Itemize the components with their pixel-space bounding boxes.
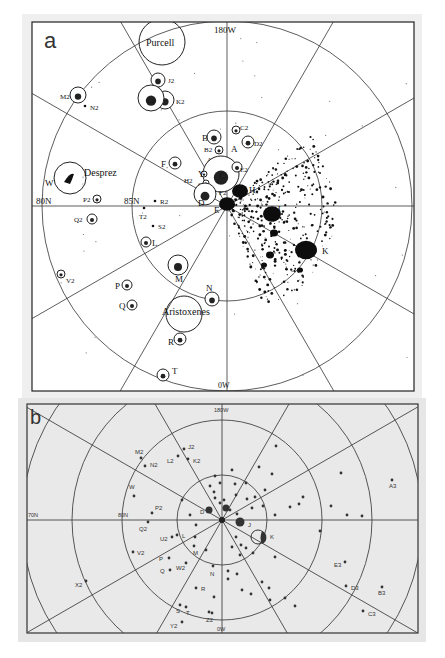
- panel-a-letter: a: [44, 28, 57, 53]
- svg-text:D2: D2: [254, 140, 263, 148]
- svg-text:T: T: [172, 366, 178, 376]
- svg-text:M2: M2: [60, 93, 70, 101]
- svg-text:E: E: [214, 205, 220, 215]
- svg-text:L2: L2: [167, 458, 174, 464]
- svg-text:Z2: Z2: [206, 617, 214, 623]
- svg-text:N: N: [210, 571, 214, 577]
- svg-text:H2: H2: [184, 177, 193, 185]
- feature-l: L: [141, 237, 158, 248]
- svg-text:Y: Y: [198, 169, 205, 179]
- svg-text:D: D: [200, 509, 205, 515]
- svg-text:L2: L2: [147, 97, 155, 105]
- panel-a: 180W0W80N85NPurcellDesprezAristoxenesJ2K…: [22, 14, 422, 398]
- feature-h2: H2: [184, 177, 193, 185]
- label-85n: 85N: [124, 196, 140, 206]
- svg-text:L: L: [152, 238, 158, 248]
- svg-text:F2: F2: [219, 189, 227, 197]
- svg-text:M2: M2: [135, 449, 144, 455]
- feature-b2: B2: [204, 146, 213, 154]
- svg-text:X2: X2: [75, 582, 83, 588]
- label-180w: 180W: [214, 407, 229, 413]
- svg-text:K: K: [322, 246, 329, 256]
- svg-text:Q: Q: [119, 301, 126, 311]
- svg-text:J: J: [277, 204, 281, 214]
- svg-text:R: R: [168, 337, 174, 347]
- label-80n: 80N: [118, 512, 128, 518]
- svg-text:Y2: Y2: [170, 623, 178, 629]
- svg-text:N: N: [206, 283, 213, 293]
- label-70n: 70N: [28, 512, 38, 518]
- feature-j: J: [277, 204, 281, 214]
- panel-a-map: 180W0W80N85NPurcellDesprezAristoxenesJ2K…: [22, 14, 422, 398]
- svg-text:Desprez: Desprez: [84, 167, 117, 178]
- panel-b: 180W0W80N70NM2N2J2L2K2WP2Q2DJKU2LV2MPW2Q…: [18, 398, 426, 642]
- svg-text:T2: T2: [139, 213, 147, 221]
- svg-text:S2: S2: [158, 223, 166, 231]
- svg-text:V2: V2: [137, 550, 145, 556]
- svg-text:K2: K2: [193, 458, 201, 464]
- svg-text:R2: R2: [160, 198, 169, 206]
- svg-text:B: B: [202, 133, 208, 143]
- svg-text:N2: N2: [150, 462, 158, 468]
- point-d: D: [200, 509, 205, 515]
- svg-text:Q2: Q2: [139, 526, 148, 532]
- label-80n: 80N: [36, 196, 52, 206]
- svg-text:B3: B3: [378, 590, 386, 596]
- svg-text:D: D: [198, 198, 205, 208]
- svg-text:E2: E2: [240, 166, 248, 174]
- svg-text:J2: J2: [188, 444, 195, 450]
- feature-l2: L2: [138, 85, 164, 111]
- svg-text:J2: J2: [168, 77, 175, 85]
- svg-text:U2: U2: [160, 536, 168, 542]
- svg-text:Q: Q: [160, 568, 165, 574]
- svg-text:E3: E3: [334, 562, 342, 568]
- feature-b: B: [202, 130, 221, 144]
- svg-text:K: K: [270, 534, 274, 540]
- feature-f: F: [161, 157, 181, 169]
- svg-text:P: P: [115, 281, 120, 291]
- svg-text:H: H: [249, 185, 256, 195]
- svg-text:V2: V2: [66, 277, 75, 285]
- svg-text:Purcell: Purcell: [146, 37, 175, 48]
- feature-h: H: [249, 185, 256, 195]
- svg-text:S: S: [176, 608, 180, 614]
- svg-text:C3: C3: [368, 611, 376, 617]
- svg-text:N2: N2: [90, 104, 99, 112]
- label-0w: 0W: [218, 381, 230, 390]
- svg-text:A: A: [231, 144, 238, 154]
- svg-text:F: F: [161, 159, 166, 169]
- svg-text:W: W: [45, 178, 54, 188]
- svg-text:K2: K2: [176, 98, 185, 106]
- svg-text:A3: A3: [389, 483, 397, 489]
- svg-text:P2: P2: [155, 505, 163, 511]
- feature-f2: F2: [219, 189, 227, 197]
- feature-e: E: [214, 205, 220, 215]
- feature-k: K: [322, 246, 329, 256]
- svg-text:W2: W2: [176, 565, 186, 571]
- svg-text:T: T: [186, 610, 190, 616]
- panel-b-map: 180W0W80N70NM2N2J2L2K2WP2Q2DJKU2LV2MPW2Q…: [18, 398, 426, 642]
- svg-text:C2: C2: [240, 124, 249, 132]
- svg-text:W: W: [129, 484, 135, 490]
- svg-text:C: C: [219, 171, 225, 181]
- label-180w: 180W: [214, 25, 237, 35]
- point-k: K: [270, 534, 274, 540]
- svg-text:Q2: Q2: [74, 216, 83, 224]
- label-0w: 0W: [217, 626, 226, 632]
- svg-text:J: J: [248, 522, 251, 528]
- feature-w: W: [45, 178, 54, 188]
- svg-text:P: P: [159, 556, 163, 562]
- svg-text:B2: B2: [204, 146, 213, 154]
- svg-text:P2: P2: [83, 196, 91, 204]
- svg-text:R: R: [201, 586, 206, 592]
- svg-text:D3: D3: [351, 585, 359, 591]
- svg-text:M: M: [175, 274, 183, 284]
- svg-text:Aristoxenes: Aristoxenes: [162, 306, 210, 317]
- panel-b-letter: b: [30, 406, 41, 428]
- point-j: J: [248, 522, 251, 528]
- svg-text:M: M: [193, 550, 198, 556]
